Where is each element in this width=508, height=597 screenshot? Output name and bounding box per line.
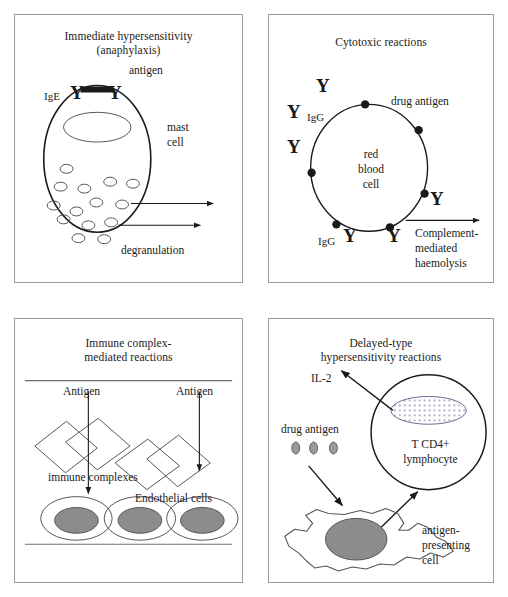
endothelial-cell-nucleus (181, 507, 225, 533)
antigen-label-left: Antigen (63, 385, 100, 398)
t-lymphocyte-label-line2: lymphocyte (383, 453, 478, 466)
antigen-label: antigen (129, 64, 163, 77)
antigen-label-right: Antigen (176, 385, 213, 398)
ige-antibody-left-icon: Y (70, 83, 84, 102)
immune-complexes-label: immune complexes (48, 471, 138, 484)
panel-immediate-hypersensitivity: Immediate hypersensitivity (anaphylaxis) (14, 14, 243, 283)
mast-cell-label-line2: cell (167, 136, 184, 149)
ige-label: IgE (44, 90, 60, 102)
igg-antibody-icon-2: Y (287, 102, 301, 121)
haemolysis-label-line2: mediated (415, 242, 457, 255)
rbc-label-line2: blood (342, 163, 400, 176)
endothelial-cell-nucleus (118, 507, 162, 533)
endothelial-cells-label: Endothelial cells (135, 492, 212, 505)
t-lymphocyte-nucleus (391, 396, 466, 424)
drug-antigen-label: drug antigen (281, 423, 339, 436)
panel-cytotoxic-reactions: Cytotoxic reactions Y Y Y Y (268, 14, 494, 283)
antigen-presenting-cell-nucleus (325, 518, 386, 560)
il2-label: IL-2 (311, 372, 331, 385)
figure-root: Immediate hypersensitivity (anaphylaxis) (0, 0, 508, 597)
mast-cell-nucleus (64, 112, 131, 142)
haemolysis-label-line3: haemolysis (415, 257, 467, 270)
t-lymphocyte-label-line1: T CD4+ (383, 438, 478, 451)
igg-label-upper: IgG (307, 111, 324, 123)
drug-antigen-arrow (309, 466, 343, 506)
drug-antigen-label: drug antigen (391, 95, 449, 108)
panel-immune-complex-reactions: Immune complex- mediated reactions (14, 318, 243, 583)
apc-label-line3: cell (422, 554, 439, 567)
degranulation-label: degranulation (121, 244, 184, 257)
mast-cell-membrane (44, 86, 151, 233)
panel-3-graphics (15, 319, 242, 582)
igg-antibody-icon-6: Y (343, 226, 357, 245)
il2-arrow (341, 371, 393, 411)
mast-cell-label-line1: mast (167, 121, 189, 134)
apc-label-line2: presenting (422, 539, 470, 552)
apc-label-line1: antigen- (422, 524, 460, 537)
panel-delayed-type-hypersensitivity: Delayed-type hypersensitivity reactions (268, 318, 494, 583)
t-lymphocyte-membrane (371, 375, 486, 490)
drug-antigen-particles (292, 442, 338, 454)
ige-antibody-right-icon: Y (108, 83, 122, 102)
endothelial-cell-nucleus (55, 507, 99, 533)
rbc-label-line3: cell (342, 178, 400, 191)
rbc-label-line1: red (342, 148, 400, 161)
igg-label-lower: IgG (318, 235, 335, 247)
igg-antibody-icon-5: Y (387, 226, 401, 245)
igg-antibody-icon-3: Y (287, 137, 301, 156)
haemolysis-label-line1: Complement- (415, 227, 478, 240)
panel-1-graphics (15, 15, 242, 282)
igg-antibody-icon-4: Y (430, 189, 444, 208)
igg-antibody-icon-1: Y (316, 76, 330, 95)
